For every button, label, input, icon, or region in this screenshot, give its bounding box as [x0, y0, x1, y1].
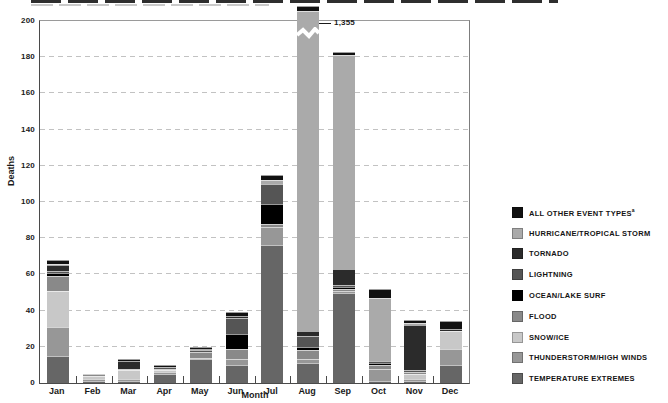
bar-segment-hurricane-tropical-storm [404, 323, 426, 325]
bar-segment-all-other-event-types [261, 175, 283, 180]
gridline [40, 165, 469, 166]
bar-segment-hurricane-tropical-storm [297, 11, 319, 330]
bar-segment-all-other-event-types [118, 359, 140, 361]
legend-label: FLOOD [529, 312, 557, 321]
x-axis-tick [147, 376, 148, 383]
legend-swatch-icon [512, 269, 523, 280]
bar-segment-temperature-extremes [190, 359, 212, 383]
bar-segment-temperature-extremes [369, 381, 391, 383]
y-tick-label: 20 [9, 342, 35, 351]
bar-segment-snow-ice [47, 291, 69, 327]
bar-segment-all-other-event-types [404, 320, 426, 324]
bar-segment-temperature-extremes [226, 365, 248, 383]
bar-segment-tornado [47, 265, 69, 270]
legend-label: SNOW/ICE [529, 333, 569, 342]
bar-segment-thunderstorm-high-winds [154, 372, 176, 374]
month-label-dec: Dec [432, 386, 468, 396]
legend-label: TEMPERATURE EXTREMES [529, 374, 635, 383]
legend-item: FLOOD [512, 306, 651, 327]
bar-segment-thunderstorm-high-winds [440, 349, 462, 365]
legend-label: ALL OTHER EVENT TYPESa [529, 207, 635, 218]
bar-segment-flood [47, 276, 69, 290]
bar-segment-hurricane-tropical-storm [261, 180, 283, 184]
bar-segment-temperature-extremes [404, 381, 426, 383]
y-tick-label: 140 [9, 125, 35, 134]
bar-segment-flood [226, 349, 248, 360]
bar-segment-tornado [226, 316, 248, 318]
bar-segment-all-other-event-types [369, 289, 391, 298]
legend-swatch-icon [512, 352, 523, 363]
x-axis-tick [290, 376, 291, 383]
legend-item: LIGHTNING [512, 264, 651, 285]
legend-swatch-icon [512, 290, 523, 301]
bar-segment-all-other-event-types [226, 312, 248, 316]
month-label-feb: Feb [75, 386, 111, 396]
legend-label: THUNDERSTORM/HIGH WINDS [529, 353, 647, 362]
legend-label: OCEAN/LAKE SURF [529, 291, 606, 300]
bar-segment-thunderstorm-high-winds [297, 359, 319, 363]
bar-segment-flood [261, 224, 283, 228]
legend-label: TORNADO [529, 249, 569, 258]
bar-segment-thunderstorm-high-winds [404, 379, 426, 381]
legend-swatch-icon [512, 228, 523, 239]
bar-segment-tornado [190, 349, 212, 351]
legend-swatch-icon [512, 248, 523, 259]
bar-segment-all-other-event-types [333, 52, 355, 56]
legend-swatch-icon [512, 207, 523, 218]
month-label-apr: Apr [146, 386, 182, 396]
bar-segment-temperature-extremes [47, 356, 69, 383]
bar-segment-flood [83, 374, 105, 376]
bar-feb [83, 374, 105, 383]
bar-segment-snow-ice [83, 376, 105, 380]
cropped-title-remnant [31, 0, 558, 3]
bar-segment-snow-ice [440, 331, 462, 349]
gridline [40, 310, 469, 311]
legend-item: TORNADO [512, 244, 651, 265]
bar-segment-tornado [297, 331, 319, 336]
legend-label: HURRICANE/TROPICAL STORM [529, 229, 651, 238]
x-axis-label: Month [215, 390, 295, 400]
legend-swatch-icon [512, 332, 523, 343]
bar-segment-flood [190, 352, 212, 357]
bar-segment-flood [118, 369, 140, 371]
bar-segment-lightning [369, 361, 391, 363]
bar-nov [404, 320, 426, 383]
month-label-sep: Sep [325, 386, 361, 396]
bar-segment-ocean-lake-surf [369, 363, 391, 365]
legend-label: LIGHTNING [529, 270, 573, 279]
bar-segment-thunderstorm-high-winds [261, 227, 283, 245]
month-label-mar: Mar [110, 386, 146, 396]
legend-item: TEMPERATURE EXTREMES [512, 368, 651, 389]
bar-segment-lightning [226, 318, 248, 334]
bar-segment-hurricane-tropical-storm [333, 55, 355, 269]
bar-segment-flood [333, 289, 355, 291]
y-tick-label: 0 [9, 378, 35, 387]
bar-segment-all-other-event-types [154, 365, 176, 367]
y-tick-label: 120 [9, 161, 35, 170]
bar-segment-flood [404, 372, 426, 374]
bar-segment-ocean-lake-surf [333, 287, 355, 289]
bar-segment-all-other-event-types [440, 321, 462, 328]
bar-segment-thunderstorm-high-winds [369, 369, 391, 382]
bar-segment-thunderstorm-high-winds [226, 359, 248, 364]
legend-item: THUNDERSTORM/HIGH WINDS [512, 348, 651, 369]
legend: ALL OTHER EVENT TYPESaHURRICANE/TROPICAL… [512, 202, 651, 389]
bar-segment-all-other-event-types [47, 260, 69, 264]
bar-segment-flood [297, 350, 319, 359]
bar-segment-lightning [154, 367, 176, 369]
bar-segment-tornado [118, 361, 140, 368]
bar-segment-temperature-extremes [333, 293, 355, 384]
bar-jan [47, 260, 69, 383]
bar-segment-tornado [440, 329, 462, 331]
bar-segment-thunderstorm-high-winds [47, 327, 69, 356]
bar-segment-snow-ice [118, 370, 140, 379]
gridline [40, 129, 469, 130]
y-tick-label: 160 [9, 88, 35, 97]
gridline [40, 237, 469, 238]
bar-segment-temperature-extremes [83, 381, 105, 383]
bar-segment-temperature-extremes [297, 363, 319, 383]
x-axis-tick [219, 376, 220, 383]
break-value-label: 1,355 [334, 18, 355, 27]
weather-fatalities-by-month-chart: Deaths 020406080100120140160180200 JanFe… [0, 0, 668, 403]
bar-segment-ocean-lake-surf [47, 273, 69, 277]
